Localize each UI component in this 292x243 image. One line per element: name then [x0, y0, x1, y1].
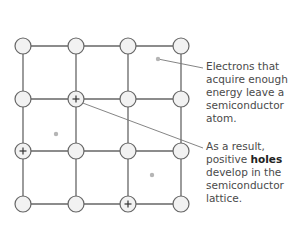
holes-text-bold: holes [251, 153, 283, 165]
atom-node [173, 196, 189, 212]
free-electron-dot [150, 173, 154, 177]
atom-node [120, 91, 136, 107]
electrons-line-2: energy leave a [206, 86, 292, 99]
atom-node [173, 38, 189, 54]
electrons-line-1: acquire enough [206, 73, 292, 86]
electrons-line-4: atom. [206, 112, 292, 125]
atom-node [68, 196, 84, 212]
atom-node [68, 143, 84, 159]
atom-node [15, 196, 31, 212]
electrons-line-3: semiconductor [206, 99, 292, 112]
atom-node [173, 143, 189, 159]
holes-text-post: develop in the semiconductor lattice. [206, 166, 284, 204]
atom-node [15, 91, 31, 107]
free-electron-dot [156, 57, 160, 61]
atom-node [173, 91, 189, 107]
holes-annotation: As a result, positive holes develop in t… [206, 140, 286, 205]
atom-node [120, 143, 136, 159]
free-electron-dot [54, 132, 58, 136]
electrons-annotation: Electrons that acquire enough energy lea… [206, 60, 292, 125]
atom-node [120, 38, 136, 54]
atom-node [68, 38, 84, 54]
electrons-line-0: Electrons that [206, 60, 292, 73]
holes-pointer-line [80, 102, 203, 148]
atom-node [15, 38, 31, 54]
